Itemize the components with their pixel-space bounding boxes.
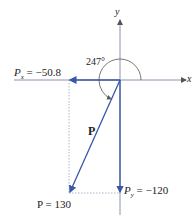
py-subscript: y xyxy=(131,191,134,199)
py-symbol: P xyxy=(124,184,131,196)
px-label: Px = −50.8 xyxy=(14,67,61,81)
x-axis-label: x xyxy=(187,74,191,84)
magnitude-label: P = 130 xyxy=(37,199,71,210)
px-value: = −50.8 xyxy=(27,66,61,78)
vector-components-diagram: y x 247° Px = −50.8 P P = 130 Py = −120 xyxy=(0,0,196,220)
y-axis-label: y xyxy=(115,7,119,17)
px-symbol: P xyxy=(14,66,21,78)
py-label: Py = −120 xyxy=(124,185,168,199)
angle-label: 247° xyxy=(86,57,105,67)
px-subscript: x xyxy=(21,73,24,81)
vector-name-label: P xyxy=(88,125,95,137)
py-value: = −120 xyxy=(137,184,169,196)
